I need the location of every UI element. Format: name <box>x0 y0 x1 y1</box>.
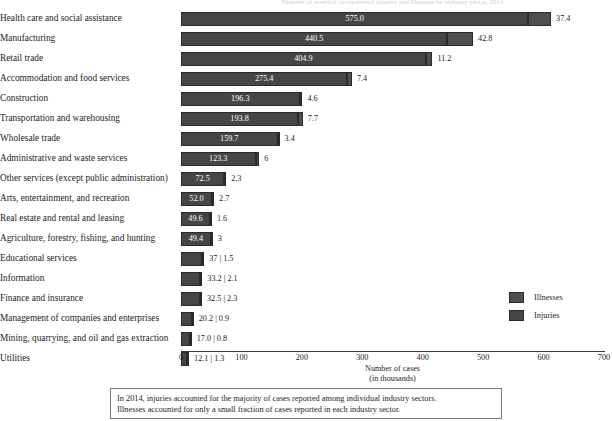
stacked-bar <box>181 312 194 326</box>
bar-segment-injuries: 193.8 <box>181 112 298 126</box>
bar-segment-injuries: 123.3 <box>181 152 256 166</box>
stacked-bar: 196.3 <box>181 92 302 106</box>
category-label: Wholesale trade <box>0 131 176 151</box>
legend-item: Illnesses <box>509 288 563 306</box>
bar-value-label: 193.8 <box>230 115 248 123</box>
stacked-bar: 123.3 <box>181 152 259 166</box>
bar-row: 275.47.4 <box>181 71 604 91</box>
x-tick-label: 400 <box>417 353 429 362</box>
bar-value-label: 49.6 <box>188 215 202 223</box>
bar-segment-injuries: 159.7 <box>181 132 278 146</box>
bar-outside-label: 2.7 <box>219 193 229 204</box>
stacked-bar <box>181 332 192 346</box>
bar-row: 17.0 | 0.8 <box>181 331 604 351</box>
bar-outside-label: 20.2 | 0.9 <box>199 313 229 324</box>
bar-outside-label: 42.8 <box>478 33 492 44</box>
category-label: Utilities <box>0 351 176 371</box>
bar-outside-label: 37 | 1.5 <box>209 253 233 264</box>
x-tick-label: 300 <box>356 353 368 362</box>
stacked-bar: 49.6 <box>181 212 212 226</box>
bar-segment-illnesses <box>212 192 214 206</box>
bar-value-label: 52.0 <box>189 195 203 203</box>
x-tick-label: 700 <box>598 353 610 362</box>
x-tick-label: 0 <box>179 353 183 362</box>
bar-outside-label: 33.2 | 2.1 <box>207 273 237 284</box>
stacked-bar: 440.5 <box>181 32 473 46</box>
bar-segment-injuries: 440.5 <box>181 32 447 46</box>
bar-row: 72.52.3 <box>181 171 604 191</box>
bar-row: 159.73.4 <box>181 131 604 151</box>
category-label: Administrative and waste services <box>0 151 176 171</box>
bar-outside-label: 4.6 <box>307 93 317 104</box>
bar-value-label: 440.5 <box>305 35 323 43</box>
bar-row: 196.34.6 <box>181 91 604 111</box>
bar-segment-illnesses <box>224 172 226 186</box>
bar-segment-illnesses <box>528 12 551 26</box>
bar-value-label: 275.4 <box>255 75 273 83</box>
bar-value-label: 159.7 <box>220 135 238 143</box>
category-label: Other services (except public administra… <box>0 171 176 191</box>
category-label: Mining, quarrying, and oil and gas extra… <box>0 331 176 351</box>
bar-segment-illnesses <box>210 212 212 226</box>
bar-row: 49.43 <box>181 231 604 251</box>
bar-row: 440.542.8 <box>181 31 604 51</box>
bar-value-label: 196.3 <box>231 95 249 103</box>
bar-outside-label: 37.4 <box>556 13 570 24</box>
category-label: Information <box>0 271 176 291</box>
legend-swatch <box>509 310 524 321</box>
bar-segment-illnesses <box>190 332 192 346</box>
x-tick-label: 100 <box>235 353 247 362</box>
bar-segment-injuries <box>181 252 202 266</box>
bar-segment-illnesses <box>300 92 303 106</box>
stacked-bar: 193.8 <box>181 112 303 126</box>
x-axis-title-main: Number of cases <box>181 364 604 374</box>
bar-row: 37 | 1.5 <box>181 251 604 271</box>
stacked-bar: 72.5 <box>181 172 226 186</box>
stacked-bar <box>181 292 202 306</box>
legend-item: Injuries <box>509 306 563 324</box>
bar-value-label: 49.4 <box>189 235 203 243</box>
bar-segment-illnesses <box>447 32 473 46</box>
bar-value-label: 404.9 <box>294 55 312 63</box>
legend-label: Injuries <box>534 311 560 320</box>
x-tick-label: 200 <box>296 353 308 362</box>
x-tick-label: 500 <box>477 353 489 362</box>
category-label: Real estate and rental and leasing <box>0 211 176 231</box>
bar-segment-illnesses <box>347 72 351 86</box>
stacked-bar: 275.4 <box>181 72 352 86</box>
bar-outside-label: 7.7 <box>308 113 318 124</box>
bar-outside-label: 17.0 | 0.8 <box>197 333 227 344</box>
bar-value-label: 575.0 <box>346 15 364 23</box>
bar-outside-label: 3.4 <box>285 133 295 144</box>
category-label: Manufacturing <box>0 31 176 51</box>
bar-row: 575.037.4 <box>181 11 604 31</box>
bar-segment-illnesses <box>200 292 202 306</box>
bar-segment-illnesses <box>426 52 433 66</box>
bar-outside-label: 3 <box>218 233 222 244</box>
stacked-bar: 575.0 <box>181 12 551 26</box>
category-label: Management of companies and enterprises <box>0 311 176 331</box>
stacked-bar: 159.7 <box>181 132 280 146</box>
bar-segment-injuries: 72.5 <box>181 172 224 186</box>
caption-line-1: In 2014, injuries accounted for the majo… <box>117 393 495 404</box>
bar-row: 52.02.7 <box>181 191 604 211</box>
legend-swatch <box>509 292 524 303</box>
bar-outside-label: 7.4 <box>357 73 367 84</box>
chart-container: Number of nonfatal occupational injuries… <box>0 0 612 421</box>
category-label: Transportation and warehousing <box>0 111 176 131</box>
bar-segment-injuries: 52.0 <box>181 192 212 206</box>
x-axis-title-sub: (in thousands) <box>181 374 604 384</box>
bar-segment-illnesses <box>211 232 213 246</box>
bar-value-label: 123.3 <box>209 155 227 163</box>
category-label: Agriculture, forestry, fishing, and hunt… <box>0 231 176 251</box>
bar-row: 49.61.6 <box>181 211 604 231</box>
category-label: Health care and social assistance <box>0 11 176 31</box>
bar-outside-label: 2.3 <box>231 173 241 184</box>
bar-segment-injuries <box>181 312 192 326</box>
bar-segment-illnesses <box>298 112 303 126</box>
caption-box: In 2014, injuries accounted for the majo… <box>110 388 502 419</box>
category-label: Construction <box>0 91 176 111</box>
stacked-bar <box>181 252 204 266</box>
category-label: Educational services <box>0 251 176 271</box>
bar-segment-illnesses <box>192 312 194 326</box>
